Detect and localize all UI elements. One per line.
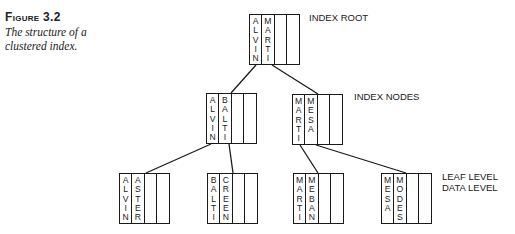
leaf-node-3: MARTI MEBAN — [293, 173, 344, 224]
key-cell-creen: CREEN — [220, 174, 232, 223]
key-cell — [419, 174, 431, 223]
key-cell — [407, 174, 419, 223]
key-cell-meban: MEBAN — [306, 174, 318, 223]
key-cell-alvin: ALVIN — [250, 15, 262, 64]
leaf-level-label: LEAF LEVEL DATA LEVEL — [442, 172, 498, 193]
index-root-label: INDEX ROOT — [309, 13, 368, 24]
key-cell — [287, 15, 299, 64]
key-cell — [232, 94, 244, 143]
key-cell — [330, 95, 342, 144]
key-char: S — [397, 213, 403, 222]
key-char: I — [212, 213, 214, 222]
edge-index-left-to-leaf-2 — [229, 144, 233, 173]
key-char: I — [224, 133, 226, 142]
key-cell-balti: BALTI — [208, 174, 220, 223]
key-char: N — [253, 54, 259, 63]
edge-index-right-to-leaf-4 — [316, 145, 406, 173]
edge-root-to-index-left — [231, 65, 256, 93]
key-cell — [145, 174, 157, 223]
key-cell — [331, 174, 343, 223]
leaf-level-line-1: LEAF LEVEL — [442, 172, 498, 183]
key-cell — [244, 94, 256, 143]
caption-line-2: clustered index. — [5, 39, 175, 53]
key-cell-aster: ASTER — [132, 174, 144, 223]
edge-root-to-index-right — [272, 65, 318, 94]
key-cell — [245, 174, 257, 223]
key-char: R — [135, 213, 141, 222]
figure-caption: Figure 3.2 The structure of a clustered … — [5, 10, 175, 53]
key-char: A — [385, 204, 391, 213]
index-nodes-label: INDEX NODES — [354, 92, 419, 103]
key-char: N — [123, 213, 129, 222]
figure-label: Figure 3.2 — [5, 10, 175, 24]
index-node-left: ALVIN BALTI — [206, 93, 257, 144]
key-cell-modes: MODES — [394, 174, 406, 223]
key-cell-marti: MARTI — [262, 15, 274, 64]
key-char: N — [210, 133, 216, 142]
key-cell — [233, 174, 245, 223]
leaf-node-4: MESA MODES — [381, 173, 432, 224]
edge-index-right-to-leaf-3 — [300, 145, 318, 173]
edge-index-left-to-leaf-1 — [146, 144, 211, 173]
key-char: N — [309, 213, 315, 222]
key-char: N — [223, 213, 229, 222]
key-cell-mesa: MESA — [382, 174, 394, 223]
index-root-node: ALVIN MARTI — [249, 14, 300, 65]
key-cell-alvin: ALVIN — [207, 94, 219, 143]
key-cell — [318, 95, 330, 144]
leaf-node-2: BALTI CREEN — [207, 173, 258, 224]
key-cell-marti: MARTI — [293, 95, 305, 144]
leaf-node-1: ALVIN ASTER — [119, 173, 170, 224]
key-char: I — [297, 134, 299, 143]
key-char: I — [298, 213, 300, 222]
leaf-level-line-2: DATA LEVEL — [442, 183, 498, 194]
key-char: I — [267, 54, 269, 63]
key-cell-marti: MARTI — [294, 174, 306, 223]
key-cell-mesa: MESA — [305, 95, 317, 144]
key-cell-balti: BALTI — [219, 94, 231, 143]
figure-description: The structure of a clustered index. — [5, 25, 175, 53]
key-char: A — [308, 125, 314, 134]
index-node-right: MARTI MESA — [292, 94, 343, 145]
key-cell — [319, 174, 331, 223]
key-cell-alvin: ALVIN — [120, 174, 132, 223]
key-cell — [275, 15, 287, 64]
key-cell — [157, 174, 169, 223]
caption-line-1: The structure of a — [5, 25, 175, 39]
